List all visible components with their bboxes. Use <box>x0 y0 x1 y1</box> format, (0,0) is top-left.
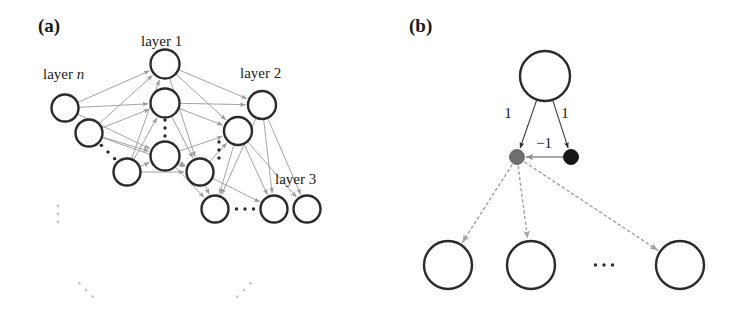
ellipsis-dot <box>235 207 238 210</box>
edge-parent-to-gray <box>520 100 537 148</box>
weight-right-label: 1 <box>561 105 569 121</box>
panel-a-edges <box>77 70 300 202</box>
edge-node-layer-2-2-to-node-layer-3-1 <box>220 144 235 193</box>
edge-node-layer-n-2-to-node-layer-1-1 <box>99 75 152 123</box>
node-child-black[interactable] <box>564 150 579 165</box>
ellipsis-dot <box>113 157 116 160</box>
panel-b-nodes <box>424 51 704 289</box>
panel-b-ellipses <box>594 263 614 266</box>
ellipsis-dot <box>243 207 246 210</box>
node-layer-2-2[interactable] <box>224 117 252 145</box>
edge-gray-to-leaf-3 <box>525 162 658 250</box>
panel-b-label: (b) <box>409 15 432 37</box>
node-layer-1-3[interactable] <box>151 142 180 171</box>
edge-node-layer-1-2-to-node-layer-2-1 <box>179 103 245 104</box>
ellipsis-dot <box>57 221 60 224</box>
ellipsis-dot <box>249 282 252 285</box>
ellipsis-left-column <box>57 205 60 224</box>
panel-b-edges <box>463 100 658 250</box>
ellipsis-dot <box>163 134 166 137</box>
edge-node-layer-n-1-to-node-layer-1-2 <box>78 104 148 107</box>
edge-gray-to-leaf-2 <box>518 166 527 238</box>
node-layer-3-2[interactable] <box>261 196 288 223</box>
edge-node-layer-n-3-to-node-layer-1-3 <box>139 163 149 167</box>
layer-2-label: layer 2 <box>240 65 281 81</box>
node-layer-3-1[interactable] <box>202 196 229 223</box>
edge-node-layer-1-4-to-node-layer-3-1 <box>205 185 209 195</box>
node-layer-n-1[interactable] <box>52 95 79 122</box>
figure-root: layer nlayer 1layer 2layer 3 (a) 11−1 (b… <box>0 0 742 323</box>
weight-lateral-label: −1 <box>536 135 552 151</box>
ellipsis-dot <box>236 295 239 298</box>
layer-3-label: layer 3 <box>275 171 316 187</box>
ellipsis-leaf-row <box>594 263 614 266</box>
edge-gray-to-leaf-1 <box>463 165 512 242</box>
ellipsis-dot <box>217 156 220 159</box>
node-leaf-3[interactable] <box>656 241 704 289</box>
node-layer-1-4[interactable] <box>187 159 214 186</box>
node-layer-1-1[interactable] <box>151 50 180 79</box>
ellipsis-dot <box>57 205 60 208</box>
ellipsis-dot <box>106 150 109 153</box>
ellipsis-layer-2 <box>217 140 220 159</box>
layer-1-label: layer 1 <box>141 33 182 49</box>
node-child-gray[interactable] <box>510 150 525 165</box>
ellipsis-dot <box>57 213 60 216</box>
panel-b-weight-labels: 11−1 <box>504 105 569 151</box>
ellipsis-dot <box>602 263 605 266</box>
ellipsis-dot <box>252 207 255 210</box>
ellipsis-dot <box>78 282 81 285</box>
ellipsis-dot <box>163 126 166 129</box>
ellipsis-dot <box>100 144 103 147</box>
edge-node-layer-n-2-to-node-layer-1-2 <box>102 109 150 128</box>
node-layer-3-3[interactable] <box>294 196 321 223</box>
figure-canvas: layer nlayer 1layer 2layer 3 (a) 11−1 (b… <box>0 0 742 323</box>
node-layer-n-2[interactable] <box>76 120 103 147</box>
edge-node-layer-2-1-to-node-layer-3-2 <box>264 119 273 193</box>
weight-left-label: 1 <box>504 105 512 121</box>
layer-n-label: layer n <box>43 66 84 82</box>
edge-node-layer-1-1-to-node-layer-2-1 <box>178 70 246 99</box>
panel-a: layer nlayer 1layer 2layer 3 (a) <box>38 15 321 298</box>
node-layer-n-3[interactable] <box>114 159 141 186</box>
node-layer-2-1[interactable] <box>248 91 276 119</box>
node-layer-1-2[interactable] <box>151 89 180 118</box>
node-parent[interactable] <box>520 51 570 101</box>
ellipsis-dot <box>163 118 166 121</box>
node-leaf-2[interactable] <box>507 241 555 289</box>
ellipsis-bottom-left <box>78 282 94 298</box>
ellipsis-dot <box>217 148 220 151</box>
node-leaf-1[interactable] <box>424 241 472 289</box>
ellipsis-layer-3 <box>235 207 255 210</box>
ellipsis-bottom-right <box>236 282 252 298</box>
edge-node-layer-n-1-to-node-layer-1-1 <box>77 71 149 103</box>
ellipsis-dot <box>91 295 94 298</box>
ellipsis-dot <box>217 140 220 143</box>
panel-a-label: (a) <box>38 15 60 37</box>
edge-node-layer-1-1-to-node-layer-2-2 <box>176 74 226 120</box>
edge-node-layer-n-2-to-node-layer-1-3 <box>102 137 149 151</box>
ellipsis-layer-n <box>100 144 117 161</box>
panel-b: 11−1 (b) <box>409 15 704 289</box>
ellipsis-dot <box>85 289 88 292</box>
ellipsis-dot <box>611 263 614 266</box>
ellipsis-layer-1 <box>163 118 166 137</box>
ellipsis-dot <box>243 289 246 292</box>
ellipsis-dot <box>594 263 597 266</box>
